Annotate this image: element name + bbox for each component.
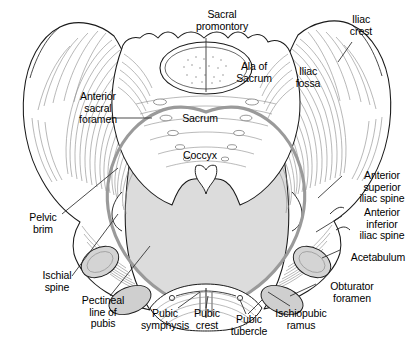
label-ischial-spine: Ischial spine — [32, 270, 82, 293]
label-anterior-superior-iliac-spine: Anterior superior iliac spine — [351, 170, 413, 205]
pubic-tubercle-left — [169, 295, 174, 300]
label-acetabulum: Acetabulum — [343, 252, 413, 264]
label-iliac-crest: Iliac crest — [335, 14, 387, 37]
label-pubic-tubercle: Pubic tubercle — [223, 314, 275, 337]
label-iliac-fossa: Iliac fossa — [285, 66, 331, 89]
label-obturator-foramen: Obturator foramen — [320, 281, 384, 304]
label-pectineal-line-of-pubis: Pectineal line of pubis — [73, 295, 133, 330]
pubic-tubercle-right — [237, 295, 242, 300]
label-ala-of-sacrum: Ala of Sacrum — [228, 61, 280, 84]
label-ischiopubic-ramus: Ischiopubic ramus — [268, 308, 334, 331]
label-sacral-promontory: Sacral promontory — [181, 9, 263, 32]
label-anterior-sacral-foramen: Anterior sacral foramen — [63, 91, 133, 126]
label-pelvic-brim: Pelvic brim — [18, 212, 68, 235]
label-sacrum: Sacrum — [176, 113, 224, 125]
label-coccyx: Coccyx — [176, 150, 224, 162]
pelvis-anterior-view-figure: Sacral promontory Iliac crest Ala of Sac… — [0, 0, 413, 347]
label-anterior-inferior-iliac-spine: Anterior inferior iliac spine — [351, 207, 413, 242]
label-pubic-crest: Pubic crest — [186, 308, 228, 331]
